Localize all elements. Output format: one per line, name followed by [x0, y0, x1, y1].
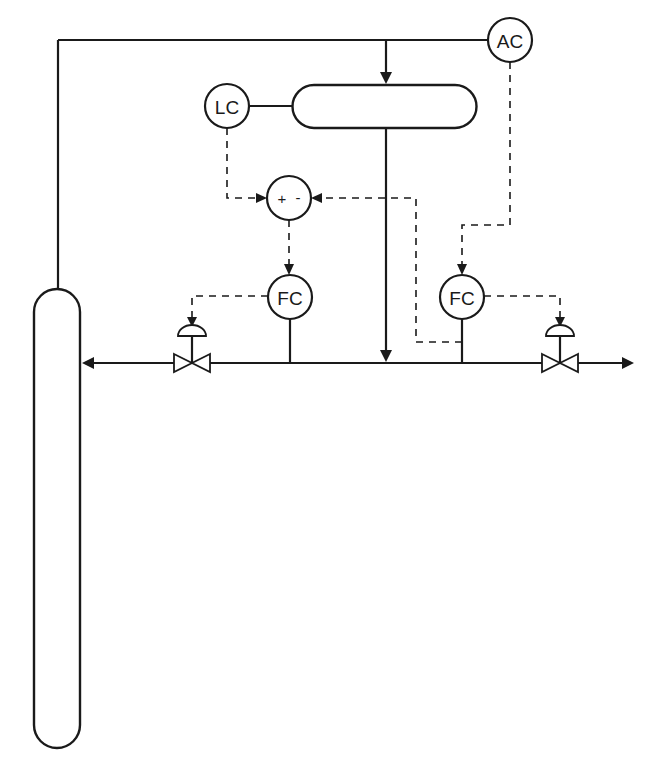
drum-outlet-line: [380, 128, 392, 362]
arrow-down-icon: [284, 264, 294, 275]
control-valve-left: [174, 325, 210, 372]
ac-label: AC: [497, 31, 523, 52]
summing-junction: + -: [267, 176, 311, 220]
arrow-down-icon: [380, 72, 392, 84]
arrow-right-icon: [622, 357, 634, 369]
flow-controller-fc-left: FC: [187, 275, 312, 363]
arrow-left-icon: [82, 357, 94, 369]
overhead-vapor-line: [58, 40, 488, 289]
level-controller-lc: LC: [205, 84, 292, 128]
minus-sign: -: [296, 189, 301, 206]
flow-controller-fc-right: FC: [440, 275, 565, 363]
signal-lc-to-sum: [227, 128, 267, 203]
distillation-column: [34, 289, 80, 748]
signal-sum-to-fc1: [284, 220, 294, 275]
fc-right-label: FC: [449, 288, 474, 309]
reflux-drum: [293, 85, 477, 128]
fc-left-label: FC: [277, 288, 302, 309]
process-control-diagram: AC LC + - FC: [0, 0, 654, 773]
arrow-down-icon: [457, 264, 467, 275]
analyzer-controller-ac: AC: [488, 18, 532, 62]
arrow-left-icon: [311, 193, 322, 203]
control-valve-right: [542, 325, 578, 372]
arrow-down-icon: [380, 350, 392, 362]
lc-label: LC: [215, 97, 239, 118]
arrow-right-icon: [256, 193, 267, 203]
plus-sign: +: [278, 190, 287, 207]
